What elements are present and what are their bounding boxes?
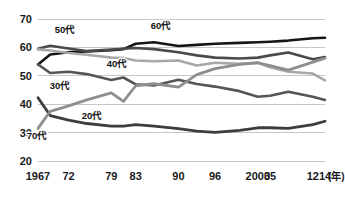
y-tick-label: 60 — [20, 41, 32, 53]
series-inline-labels: 50代60代40代30代20代70代 — [27, 20, 172, 141]
x-tick-label: 72 — [62, 170, 74, 182]
series-label: 50代 — [55, 24, 76, 35]
series-label: 40代 — [107, 58, 128, 69]
chart-canvas: 203040506070 50代60代40代30代20代70代 19677279… — [0, 0, 345, 198]
x-tick-label: 12 — [307, 170, 319, 182]
x-tick-label: 05 — [264, 170, 276, 182]
x-axis-unit: (年) — [328, 170, 345, 182]
y-tick-label: 40 — [20, 98, 32, 110]
series-label: 20代 — [82, 110, 103, 121]
x-axis-tick-labels: 196772798390962003051214 — [26, 170, 332, 182]
x-tick-label: 83 — [130, 170, 142, 182]
x-tick-label: 90 — [172, 170, 184, 182]
x-tick-label: 79 — [105, 170, 117, 182]
series-label: 70代 — [27, 130, 48, 141]
x-axis-unit-label: (年) — [328, 170, 345, 182]
line-chart-container: 203040506070 50代60代40代30代20代70代 19677279… — [0, 0, 345, 198]
y-tick-label: 50 — [20, 70, 32, 82]
x-tick-label: 96 — [209, 170, 221, 182]
x-tick-label: 1967 — [26, 170, 50, 182]
y-tick-label: 70 — [20, 13, 32, 25]
y-tick-label: 20 — [20, 155, 32, 167]
series-label: 30代 — [50, 80, 71, 91]
y-axis-tick-labels: 203040506070 — [20, 13, 32, 167]
series-label: 60代 — [151, 20, 172, 31]
